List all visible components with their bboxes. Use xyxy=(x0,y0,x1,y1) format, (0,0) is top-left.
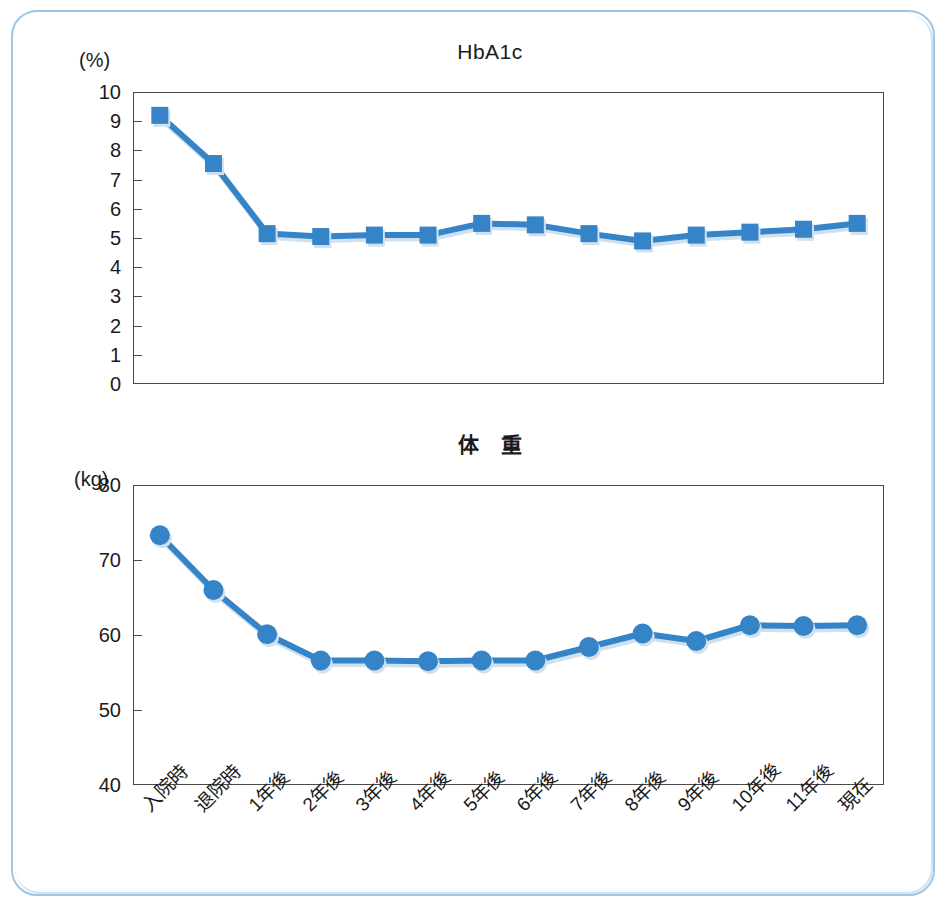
series-line xyxy=(160,115,857,241)
chart-page: HbA1c (%) 012345678910 体 重 (kg) 40506070… xyxy=(0,0,949,910)
x-axis-tick-label: 7年後 xyxy=(563,763,616,816)
data-point[interactable] xyxy=(527,216,544,233)
chart-weight: 体 重 (kg) 4050607080 入院時退院時1年後2年後3年後4年後5年… xyxy=(0,410,949,910)
x-axis-tick-label: 入院時 xyxy=(134,757,193,816)
x-axis-tick-label: 退院時 xyxy=(187,757,246,816)
x-axis-tick-label: 11年後 xyxy=(778,756,838,816)
x-axis-tick-label: 6年後 xyxy=(509,763,562,816)
data-point[interactable] xyxy=(634,232,651,249)
data-point[interactable] xyxy=(741,224,758,241)
x-axis-labels: 入院時退院時1年後2年後3年後4年後5年後6年後7年後8年後9年後10年後11年… xyxy=(0,410,949,910)
x-axis-tick-label: 5年後 xyxy=(456,763,509,816)
data-point[interactable] xyxy=(151,107,168,124)
x-axis-tick-label: 3年後 xyxy=(348,763,401,816)
x-axis-tick-label: 2年後 xyxy=(295,763,348,816)
series-hba1c xyxy=(0,0,949,410)
data-point[interactable] xyxy=(688,227,705,244)
data-point[interactable] xyxy=(473,215,490,232)
chart-hba1c: HbA1c (%) 012345678910 xyxy=(0,0,949,410)
data-point[interactable] xyxy=(366,227,383,244)
data-point[interactable] xyxy=(259,225,276,242)
data-point[interactable] xyxy=(849,215,866,232)
data-point[interactable] xyxy=(205,155,222,172)
data-point[interactable] xyxy=(420,227,437,244)
x-axis-tick-label: 4年後 xyxy=(402,763,455,816)
x-axis-tick-label: 8年後 xyxy=(617,763,670,816)
x-axis-tick-label: 現在 xyxy=(831,770,877,816)
data-point[interactable] xyxy=(795,221,812,238)
data-point[interactable] xyxy=(312,228,329,245)
data-point[interactable] xyxy=(580,225,597,242)
x-axis-tick-label: 1年後 xyxy=(241,763,294,816)
x-axis-tick-label: 9年後 xyxy=(670,763,723,816)
x-axis-tick-label: 10年後 xyxy=(724,755,785,816)
